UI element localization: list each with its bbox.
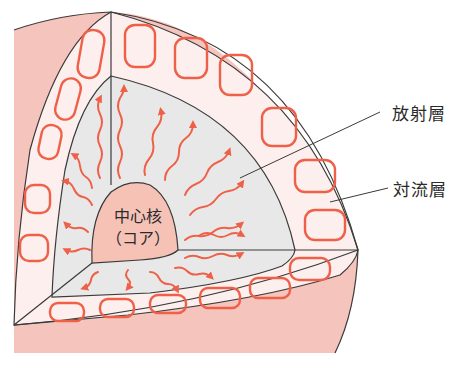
radiative-zone-label: 放射層 xyxy=(392,100,446,125)
core-label: 中心核 （コア） xyxy=(96,206,180,250)
convective-zone-label: 対流層 xyxy=(393,176,447,201)
core-label-line1: 中心核 xyxy=(96,206,180,228)
core-label-line2: （コア） xyxy=(96,228,180,250)
